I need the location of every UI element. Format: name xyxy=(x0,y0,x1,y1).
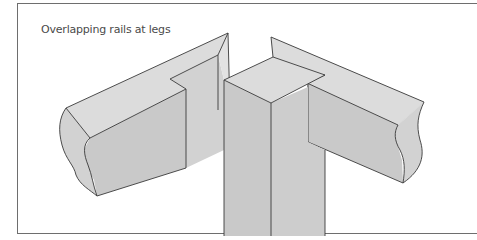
left-rail xyxy=(60,33,230,196)
leg-left-face xyxy=(224,80,271,236)
